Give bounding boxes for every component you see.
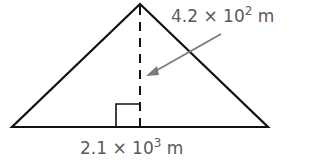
pointer-arrow-shaft [152,34,221,73]
height-label: 4.2 × 102 m [171,6,274,26]
base-label: 2.1 × 103 m [80,138,183,158]
pointer-arrow-head [146,66,159,76]
right-angle-marker [116,104,140,127]
